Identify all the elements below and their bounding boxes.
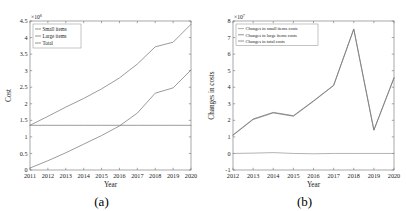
y-axis-multiplier: ×108 — [31, 12, 42, 20]
x-tick-label: 2016 — [307, 172, 319, 179]
figure-two-panel-cost-charts: 00.511.522.533.544.520112012201320142015… — [0, 0, 406, 211]
y-tick-label: 8 — [227, 17, 230, 24]
svg-text:×107: ×107 — [234, 12, 245, 20]
legend-label: Changes in small items costs — [246, 26, 298, 31]
y-tick-label: 5 — [227, 67, 230, 74]
y-tick-label: 2 — [24, 100, 27, 107]
legend-label: Changes in total costs — [246, 39, 286, 44]
x-tick-label: 2020 — [185, 172, 197, 179]
x-axis-title: Year — [104, 181, 118, 189]
x-tick-label: 2014 — [267, 172, 279, 179]
x-tick-label: 2014 — [77, 172, 89, 179]
panel-b: -101234567820122013201420152016201720182… — [203, 0, 406, 211]
panel-b-caption: (b) — [203, 194, 406, 210]
legend-label: Changes in large items costs — [246, 33, 297, 38]
y-tick-label: 2 — [227, 116, 230, 123]
x-tick-label: 2013 — [60, 172, 72, 179]
legend: Changes in small items costsChanges in l… — [236, 24, 318, 46]
x-tick-label: 2018 — [348, 172, 360, 179]
legend-label: Small items — [43, 26, 67, 32]
y-tick-label: 6 — [227, 50, 230, 57]
y-tick-label: 0 — [227, 150, 230, 157]
chart-b-svg: -101234567820122013201420152016201720182… — [203, 0, 406, 211]
x-tick-label: 2012 — [42, 172, 54, 179]
y-tick-label: 3 — [227, 100, 230, 107]
x-tick-label: 2015 — [287, 172, 299, 179]
legend: Small itemsLarge itemsTotal — [33, 24, 81, 48]
y-tick-label: 7 — [227, 34, 230, 41]
y-axis-multiplier: ×107 — [234, 12, 245, 20]
y-tick-label: 3 — [24, 67, 27, 74]
y-axis-title: Changes in costs — [208, 71, 216, 120]
y-tick-label: 3.5 — [20, 50, 28, 57]
y-axis-title: Cost — [5, 89, 13, 102]
x-tick-label: 2012 — [227, 172, 239, 179]
legend-label: Total — [43, 40, 54, 46]
x-tick-label: 2017 — [131, 172, 143, 179]
svg-text:×108: ×108 — [31, 12, 42, 20]
x-axis-title: Year — [307, 181, 321, 189]
y-tick-label: 4 — [24, 34, 27, 41]
x-tick-label: 2017 — [327, 172, 339, 179]
x-tick-label: 2016 — [113, 172, 125, 179]
y-tick-label: 1 — [24, 133, 27, 140]
y-tick-label: 4 — [227, 83, 230, 90]
y-tick-label: 1.5 — [20, 116, 28, 123]
y-tick-label: 4.5 — [20, 17, 28, 24]
y-tick-label: 0.5 — [20, 150, 28, 157]
legend-label: Large items — [43, 33, 67, 39]
x-tick-label: 2019 — [167, 172, 179, 179]
series-line — [30, 70, 191, 168]
x-tick-label: 2013 — [247, 172, 259, 179]
x-tick-label: 2018 — [149, 172, 161, 179]
panel-a-caption: (a) — [0, 194, 203, 210]
x-tick-label: 2019 — [368, 172, 380, 179]
y-tick-label: 1 — [227, 133, 230, 140]
x-tick-label: 2020 — [388, 172, 400, 179]
x-tick-label: 2011 — [24, 172, 36, 179]
y-tick-label: 2.5 — [20, 83, 28, 90]
chart-a-svg: 00.511.522.533.544.520112012201320142015… — [0, 0, 203, 211]
x-tick-label: 2015 — [95, 172, 107, 179]
series-line — [233, 153, 394, 154]
panel-a: 00.511.522.533.544.520112012201320142015… — [0, 0, 203, 211]
